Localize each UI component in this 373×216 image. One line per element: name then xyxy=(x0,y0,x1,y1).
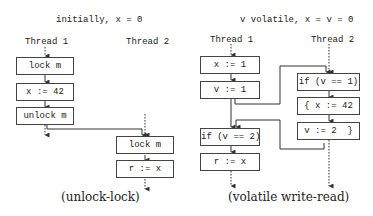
right-caption: (volatile write-read) xyxy=(228,190,349,204)
right-t1-if-box: if (v == 2) xyxy=(200,128,260,146)
left-thread2-label: Thread 2 xyxy=(126,37,169,47)
left-t2-lock-box: lock m xyxy=(116,136,174,154)
right-t1-read-box: r := x xyxy=(200,153,260,171)
right-t2-if-box: if (v == 1) xyxy=(297,73,360,91)
left-header: initially, x = 0 xyxy=(56,15,142,25)
left-t2-read-box: r := x xyxy=(116,160,174,178)
right-thread2-label: Thread 2 xyxy=(311,35,354,45)
right-t2-assign-box: { x := 42 xyxy=(297,97,360,115)
left-t1-assign-box: x := 42 xyxy=(16,83,74,101)
left-t1-lock-box: lock m xyxy=(16,57,74,75)
right-t1-write-x-box: x := 1 xyxy=(200,56,260,74)
right-t1-write-v-box: v := 1 xyxy=(200,81,260,99)
right-header: v volatile, x = v = 0 xyxy=(240,15,353,25)
left-caption: (unlock-lock) xyxy=(61,190,140,204)
right-thread1-label: Thread 1 xyxy=(210,35,253,45)
left-thread1-label: Thread 1 xyxy=(25,37,68,47)
right-t2-write-v-box: v := 2 } xyxy=(297,122,360,140)
left-t1-unlock-box: unlock m xyxy=(16,107,74,125)
